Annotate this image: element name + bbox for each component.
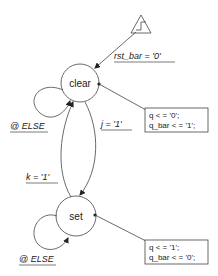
set-action-link	[95, 215, 146, 241]
clear-self-loop-label: @ ELSE	[10, 121, 46, 131]
state-set-label: set	[69, 211, 83, 222]
set-action-line-1: q < = '1';	[149, 243, 179, 252]
state-clear-label: clear	[69, 78, 91, 89]
state-diagram: rst_bar = '0' clear @ ELSE q < = '0'; q_…	[0, 0, 218, 276]
clear-action-line-1: q < = '0';	[149, 111, 179, 120]
transition-set-to-clear-label: k = '1'	[26, 172, 49, 182]
transition-clear-to-set	[80, 102, 96, 195]
transition-set-to-clear	[61, 102, 73, 197]
clear-action-link	[99, 84, 146, 110]
state-set: set	[56, 196, 96, 236]
clear-action-line-2: q_bar < = '1';	[149, 121, 195, 130]
state-clear: clear	[61, 64, 99, 102]
set-self-loop-label: @ ELSE	[19, 254, 55, 264]
set-action-box: q < = '1'; q_bar < = '0';	[145, 240, 208, 264]
reset-step-triangle-icon	[131, 15, 151, 33]
reset-transition-arrow	[95, 32, 136, 68]
transition-clear-to-set-label: j = '1'	[100, 119, 122, 129]
reset-condition-label: rst_bar = '0'	[114, 51, 161, 61]
clear-action-box: q < = '0'; q_bar < = '1';	[145, 108, 208, 132]
set-action-line-2: q_bar < = '0';	[149, 253, 195, 262]
